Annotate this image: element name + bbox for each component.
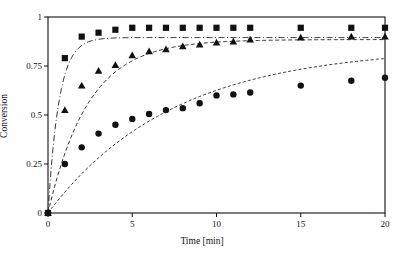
data-point-square — [298, 25, 304, 31]
data-point-square — [197, 25, 203, 31]
data-point-square — [247, 25, 253, 31]
data-point-circle — [180, 105, 186, 111]
data-point-square — [95, 30, 101, 36]
x-axis-title: Time [min] — [0, 236, 404, 246]
data-point-square — [129, 25, 135, 31]
data-point-circle — [129, 116, 135, 122]
y-axis-tick-label: 0.5 — [12, 110, 42, 120]
data-point-triangle — [381, 33, 389, 40]
data-point-circle — [62, 161, 68, 167]
data-point-circle — [230, 91, 236, 97]
x-axis-tick-label: 10 — [212, 219, 221, 229]
data-point-circle — [146, 111, 152, 117]
data-point-square — [348, 25, 354, 31]
data-point-square — [163, 25, 169, 31]
data-point-triangle — [128, 51, 136, 58]
data-point-triangle — [196, 41, 204, 48]
data-point-circle — [163, 107, 169, 113]
data-point-triangle — [246, 36, 254, 43]
plot-frame — [48, 17, 385, 213]
data-point-circle — [382, 75, 388, 81]
figure-scatter-conversion-vs-time: Conversion Time [min] 0510152000.250.50.… — [0, 0, 404, 257]
y-axis-tick-label: 0 — [12, 208, 42, 218]
data-point-circle — [79, 144, 85, 150]
data-point-square — [213, 25, 219, 31]
data-point-triangle — [145, 48, 153, 55]
y-axis-title: Conversion — [0, 71, 9, 161]
data-point-circle — [95, 130, 101, 136]
data-point-circle — [298, 82, 304, 88]
data-point-circle — [196, 100, 202, 106]
x-axis-tick-label: 0 — [46, 219, 51, 229]
data-point-circle — [213, 92, 219, 98]
fit-curve-triangle — [48, 40, 385, 213]
data-point-square — [230, 25, 236, 31]
plot-canvas — [0, 0, 404, 257]
y-axis-tick-label: 0.25 — [12, 159, 42, 169]
x-axis-tick-label: 15 — [296, 219, 305, 229]
data-point-triangle — [61, 106, 69, 113]
data-point-square — [79, 34, 85, 40]
data-point-square — [382, 25, 388, 31]
data-point-triangle — [348, 33, 356, 40]
data-point-square — [62, 55, 68, 61]
x-axis-tick-label: 5 — [130, 219, 135, 229]
data-point-circle — [112, 122, 118, 128]
y-axis-tick-label: 0.75 — [12, 61, 42, 71]
data-point-triangle — [95, 67, 103, 74]
data-point-triangle — [162, 46, 170, 53]
data-point-circle — [45, 210, 51, 216]
y-axis-tick-label: 1 — [12, 12, 42, 22]
data-point-square — [112, 27, 118, 33]
data-point-triangle — [112, 61, 120, 68]
data-point-square — [180, 25, 186, 31]
data-point-circle — [247, 89, 253, 95]
data-point-square — [146, 25, 152, 31]
data-point-circle — [348, 78, 354, 84]
x-axis-tick-label: 20 — [381, 219, 390, 229]
data-point-triangle — [78, 82, 86, 89]
